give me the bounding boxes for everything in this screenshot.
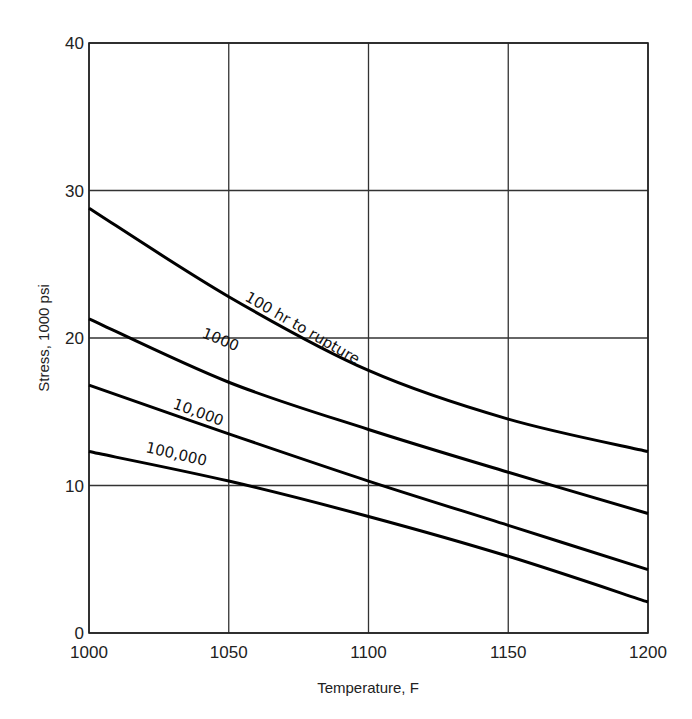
curve-label-100hr: 100 hr to rupture bbox=[242, 288, 363, 368]
y-tick-label: 20 bbox=[65, 329, 84, 348]
x-tick-label: 1100 bbox=[350, 643, 387, 662]
curve-label-1000: 1000 bbox=[200, 324, 242, 355]
x-tick-label: 1150 bbox=[490, 643, 527, 662]
y-tick-label: 0 bbox=[75, 624, 84, 643]
y-axis-title: Stress, 1000 psi bbox=[35, 284, 52, 392]
y-tick-label: 30 bbox=[65, 182, 84, 201]
x-tick-label: 1000 bbox=[70, 643, 108, 662]
y-tick-labels: 010203040 bbox=[65, 34, 84, 643]
creep-rupture-chart: 010203040 10001050110011501200 Temperatu… bbox=[0, 0, 692, 719]
y-tick-label: 40 bbox=[65, 34, 84, 53]
x-tick-label: 1050 bbox=[210, 643, 248, 662]
x-axis-title: Temperature, F bbox=[317, 679, 419, 696]
x-tick-labels: 10001050110011501200 bbox=[70, 643, 667, 662]
y-tick-label: 10 bbox=[65, 477, 84, 496]
x-tick-label: 1200 bbox=[629, 643, 667, 662]
